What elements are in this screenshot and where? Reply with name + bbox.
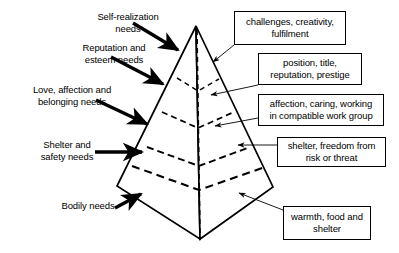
callout-affection-caring: affection, caring, working in compatible… xyxy=(258,94,384,126)
callout-position-title: position, title, reputation, prestige xyxy=(258,53,362,85)
callout-shelter-freedom: shelter, freedom from risk or threat xyxy=(277,137,386,167)
callout-challenges-creativity: challenges, creativity, fulfilment xyxy=(234,11,346,45)
label-love-belonging: Love, affection and belonging needs xyxy=(12,84,132,107)
label-self-realization: Self-realization needs xyxy=(73,11,183,34)
diagram-canvas: Self-realization needs Reputation and es… xyxy=(0,0,399,253)
label-shelter-safety: Shelter and safety needs xyxy=(18,139,116,162)
callout-warmth-food: warmth, food and shelter xyxy=(283,206,371,240)
label-bodily-needs: Bodily needs xyxy=(45,200,131,212)
leader-challenges-creativity xyxy=(213,45,234,62)
label-reputation-esteem: Reputation and esteem needs xyxy=(59,42,169,65)
